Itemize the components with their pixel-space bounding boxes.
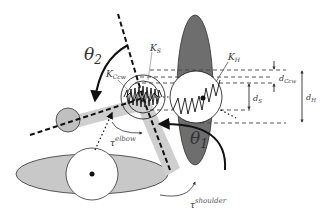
k-ccw-label: KCcw <box>105 69 127 80</box>
shoulder-joint-center <box>90 172 95 177</box>
d-h-label: dH <box>306 93 316 103</box>
tau-shoulder-arc <box>160 182 195 196</box>
k-h-leader <box>216 62 228 82</box>
reference-dashed-line <box>118 14 143 98</box>
theta2-label: θ2 <box>84 44 102 67</box>
arm-diagram: θ2 θ1 KS KCcw KH dCcw dS dH τelbow τshou… <box>0 0 324 216</box>
k-s-label: KS <box>149 43 161 54</box>
tau-elbow-curve <box>112 122 142 133</box>
tau-shoulder-label: τshoulder <box>190 197 227 210</box>
tau-elbow-label: τelbow <box>110 135 136 148</box>
k-h-label: KH <box>227 52 241 63</box>
shoulder-spring-circle <box>170 71 222 123</box>
spring-h-anchor <box>201 96 206 101</box>
d-s-label: dS <box>253 94 262 104</box>
d-ccw-label: dCcw <box>279 74 296 84</box>
